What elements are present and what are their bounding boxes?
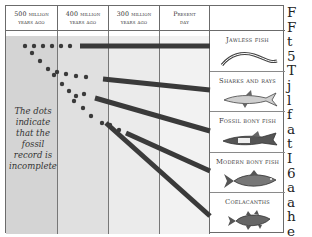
group-jawless-fish: Jawless fish [210, 31, 285, 72]
fossil-fish-icon [220, 128, 278, 150]
text-fragment: a [287, 179, 295, 195]
text-fragment: a [287, 121, 295, 137]
text-fragment: 6 [287, 165, 296, 181]
group-fossil-bony-fish: Fossil bony fish [210, 112, 285, 153]
text-fragment: a [287, 194, 295, 210]
text-fragment: 5 [287, 48, 296, 64]
evolution-chart: 500 million years ago 400 million years … [5, 5, 284, 233]
lineage-lines [80, 46, 210, 216]
sharks-line [103, 79, 210, 90]
lamprey-icon [220, 47, 278, 69]
text-fragment: I [287, 150, 292, 166]
text-fragment: t [287, 135, 292, 151]
group-label: Modern bony fish [210, 158, 285, 166]
text-fragment: l [287, 92, 291, 108]
shark-icon [220, 88, 278, 110]
group-sharks-and-rays: Sharks and rays [210, 72, 285, 113]
group-label: Sharks and rays [210, 77, 285, 85]
coelacanth-line [106, 123, 210, 216]
group-coelacanths: Coelacanths [210, 193, 285, 234]
text-fragment: F [287, 4, 296, 20]
group-label: Jawless fish [210, 36, 285, 44]
group-label: Coelacanths [210, 198, 285, 206]
text-fragment: T [287, 62, 296, 78]
text-fragment: F [287, 19, 296, 35]
coelacanth-icon [220, 209, 278, 231]
dots [23, 44, 121, 132]
text-fragment: t [287, 33, 292, 49]
text-fragment: f [287, 106, 292, 122]
bony-fish-icon [220, 169, 278, 191]
fish-groups: Jawless fish Sharks and rays Fossil bony… [210, 31, 285, 234]
group-label: Fossil bony fish [210, 117, 285, 125]
text-fragment: e [287, 223, 295, 237]
cropped-body-text: F F t 5 T j l f a t I 6 a a h e o [287, 5, 312, 237]
text-fragment: h [287, 208, 296, 224]
group-modern-bony-fish: Modern bony fish [210, 153, 285, 194]
text-fragment: j [287, 77, 291, 93]
